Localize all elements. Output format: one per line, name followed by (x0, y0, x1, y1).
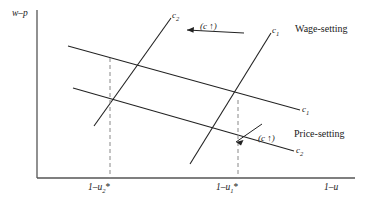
wage-setting-curve-c2 (94, 18, 171, 126)
y-axis-label: w–p (12, 9, 28, 19)
legend-wage-setting: Wage-setting (295, 24, 348, 34)
price-setting-curve-c1 (68, 46, 300, 110)
x-axis-label: 1–u (324, 183, 338, 193)
tick-u1-prefix: 1– (216, 182, 226, 192)
curve-label-wage-c2: c2 (172, 11, 179, 22)
curve-label-price-c1-sub: 1 (306, 109, 309, 116)
curve-label-wage-c1: c1 (272, 26, 279, 37)
tick-u2-star: * (106, 182, 111, 192)
curve-label-price-c2-sub: 2 (300, 150, 303, 157)
tick-label-u1-star: 1–u1* (216, 183, 238, 194)
curve-label-price-c1: c1 (302, 105, 309, 116)
annotation-shift-top: (c ↑) (200, 22, 217, 31)
economics-diagram: w–p 1–u 1–u2* 1–u1* c2 c1 c1 c2 (c ↑) (c… (0, 0, 365, 207)
curve-label-wage-c2-sub: 2 (176, 15, 179, 22)
tick-label-u2-star: 1–u2* (88, 183, 110, 194)
legend-price-setting: Price-setting (294, 129, 345, 139)
tick-u1-star: * (234, 182, 239, 192)
annotation-shift-bottom: (c ↑) (258, 134, 275, 143)
tick-u2-prefix: 1– (88, 182, 98, 192)
curve-label-wage-c1-sub: 1 (276, 30, 279, 37)
curve-label-price-c2: c2 (296, 146, 303, 157)
